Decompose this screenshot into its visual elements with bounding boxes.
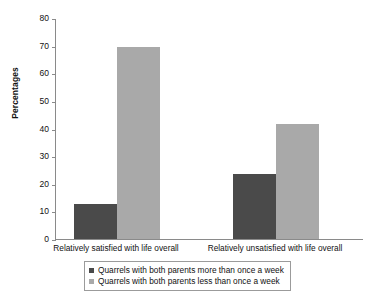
y-axis-title: Percentages bbox=[10, 45, 20, 141]
y-axis-tick-mark bbox=[52, 185, 56, 186]
y-axis-tick-mark bbox=[52, 240, 56, 241]
y-axis-tick-label: 20 bbox=[40, 179, 49, 189]
bar-chart-figure: Percentages 01020304050607080 Relatively… bbox=[0, 0, 381, 301]
y-axis-tick-label: 60 bbox=[40, 68, 49, 78]
legend-item-label: Quarrels with both parents less than onc… bbox=[98, 276, 280, 287]
y-axis-tick: 60 bbox=[0, 74, 56, 75]
y-axis-tick-label: 80 bbox=[40, 13, 49, 23]
bar bbox=[117, 47, 160, 239]
chart-legend: Quarrels with both parents more than onc… bbox=[84, 261, 291, 291]
y-axis-tick-mark bbox=[52, 47, 56, 48]
y-axis-tick-label: 30 bbox=[40, 151, 49, 161]
legend-item[interactable]: Quarrels with both parents more than onc… bbox=[89, 265, 284, 276]
bar bbox=[74, 204, 117, 239]
y-axis-tick: 0 bbox=[0, 240, 56, 241]
y-axis-tick: 20 bbox=[0, 185, 56, 186]
y-axis-tick-label: 10 bbox=[40, 206, 49, 216]
y-axis-tick: 50 bbox=[0, 102, 56, 103]
legend-swatch-icon bbox=[89, 268, 94, 273]
y-axis-tick: 30 bbox=[0, 157, 56, 158]
y-axis-tick-mark bbox=[52, 19, 56, 20]
y-axis-tick-mark bbox=[52, 74, 56, 75]
y-axis-tick: 10 bbox=[0, 212, 56, 213]
x-axis-category-label: Relatively unsatisfied with life overall bbox=[180, 243, 370, 253]
legend-item-label: Quarrels with both parents more than onc… bbox=[98, 265, 284, 276]
legend-swatch-icon bbox=[89, 279, 94, 284]
y-axis-tick-mark bbox=[52, 157, 56, 158]
plot-area: 01020304050607080 bbox=[55, 19, 363, 240]
bar bbox=[233, 174, 276, 239]
bar bbox=[276, 124, 319, 239]
y-axis-tick-label: 40 bbox=[40, 124, 49, 134]
y-axis-tick: 70 bbox=[0, 47, 56, 48]
legend-item[interactable]: Quarrels with both parents less than onc… bbox=[89, 276, 284, 287]
y-axis-tick-mark bbox=[52, 130, 56, 131]
y-axis-tick-label: 50 bbox=[40, 96, 49, 106]
y-axis-tick: 80 bbox=[0, 19, 56, 20]
legend-rows: Quarrels with both parents more than onc… bbox=[89, 265, 284, 287]
y-axis-tick: 40 bbox=[0, 130, 56, 131]
y-axis-tick-mark bbox=[52, 102, 56, 103]
y-axis-tick-label: 70 bbox=[40, 41, 49, 51]
y-axis-tick-mark bbox=[52, 212, 56, 213]
